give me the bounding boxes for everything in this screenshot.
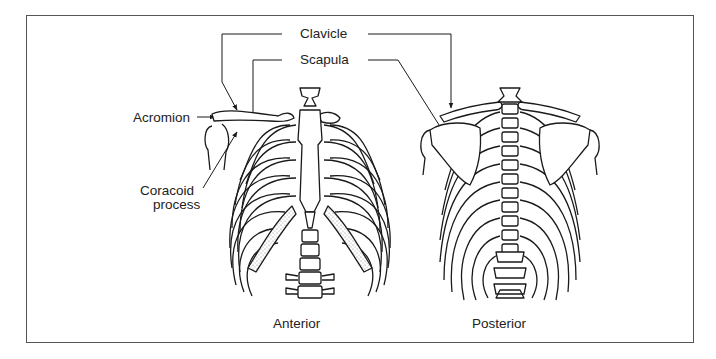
posterior-ribcage [421,88,599,300]
skeleton-illustration [0,0,716,359]
clavicle-leader-left [222,34,282,110]
label-coracoid-process: process [153,197,200,212]
label-acromion: Acromion [133,110,190,125]
label-coracoid: Coracoid [140,183,194,198]
coracoid-leader [203,132,237,188]
label-clavicle: Clavicle [300,26,347,41]
caption-anterior: Anterior [273,316,320,331]
scapula-leader-right [368,60,446,136]
scapula-leader-left [253,60,282,120]
anterior-ribcage [205,88,390,298]
clavicle-leader-right [368,34,451,108]
label-scapula: Scapula [300,52,349,67]
caption-posterior: Posterior [472,316,526,331]
